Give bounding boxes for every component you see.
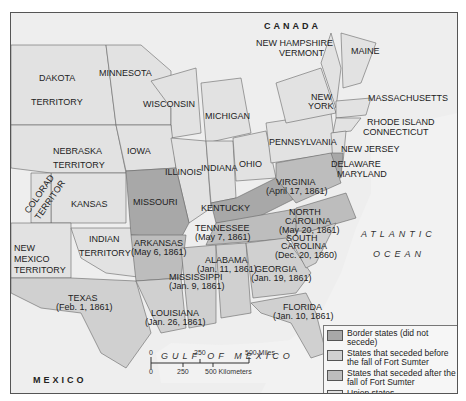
label-connecticut: CONNECTICUT	[363, 127, 429, 137]
label-louisiana-date: (Jan. 26, 1861)	[145, 317, 206, 327]
scale-miles-500: 500 Miles	[245, 349, 275, 356]
label-delaware: DELAWARE	[331, 159, 381, 169]
water-label-ocean: OCEAN	[373, 249, 425, 259]
legend-swatch-border	[327, 330, 343, 341]
label-mississippi-date: (Jan. 9, 1861)	[169, 281, 225, 291]
label-pennsylvania: PENNSYLVANIA	[269, 137, 337, 147]
label-georgia-date: (Jan. 19, 1861)	[251, 273, 312, 283]
legend-label-union: Union states	[347, 389, 394, 394]
label-wisconsin: WISCONSIN	[143, 99, 195, 109]
country-label-mexico: MEXICO	[33, 375, 87, 385]
dakota-territory	[11, 45, 116, 125]
massachusetts	[336, 98, 371, 118]
label-dakota-territory: TERRITORY	[31, 97, 83, 107]
legend-label-seceded-after: States that seceded after the fall of Fo…	[347, 369, 457, 387]
label-new-mexico-1: NEW	[14, 243, 35, 253]
legend-item-seceded-after: States that seceded after the fall of Fo…	[327, 369, 457, 387]
label-iowa: IOWA	[127, 146, 151, 156]
label-kansas: KANSAS	[71, 199, 108, 209]
label-rhode-island: RHODE ISLAND	[367, 117, 435, 127]
label-new-mexico-3: TERRITORY	[14, 265, 66, 275]
scale-km-0: 0	[149, 368, 153, 375]
label-vermont: VERMONT	[279, 48, 324, 58]
water-label-atlantic: ATLANTIC	[361, 229, 436, 239]
label-nebraska-territory: TERRITORY	[53, 160, 105, 170]
label-indiana: INDIANA	[201, 163, 238, 173]
scale-km-250: 250	[177, 368, 189, 375]
label-missouri: MISSOURI	[133, 197, 178, 207]
label-south-carolina-3: (Dec. 20, 1860)	[275, 250, 337, 260]
scale-km-500: 500 Kilometers	[205, 368, 252, 375]
legend-swatch-seceded-before	[327, 350, 343, 361]
label-minnesota: MINNESOTA	[99, 68, 152, 78]
label-new-jersey: NEW JERSEY	[341, 144, 400, 154]
label-dakota: DAKOTA	[39, 73, 75, 83]
label-florida-date: (Jan. 10, 1861)	[273, 311, 334, 321]
label-maine: MAINE	[351, 46, 380, 56]
legend-label-seceded-before: States that seceded before the fall of F…	[347, 349, 457, 367]
legend-item-union: Union states	[327, 389, 457, 394]
label-michigan: MICHIGAN	[205, 111, 250, 121]
legend-item-border: Border states (did not secede)	[327, 329, 457, 347]
scale-bar: 0 250 500 Miles 0 250 500 Kilometers	[147, 351, 277, 381]
label-ohio: OHIO	[239, 159, 262, 169]
label-kentucky: KENTUCKY	[201, 203, 250, 213]
label-illinois: ILLINOIS	[165, 167, 202, 177]
label-maryland: MARYLAND	[337, 169, 387, 179]
legend-item-seceded-before: States that seceded before the fall of F…	[327, 349, 457, 367]
scale-miles-250: 250	[194, 349, 206, 356]
legend-swatch-union	[327, 390, 343, 394]
map-frame: CANADA MEXICO ATLANTIC OCEAN GULF OF MEX…	[10, 12, 458, 394]
label-new-mexico-2: MEXICO	[14, 254, 50, 264]
label-new-york-2: YORK	[308, 101, 334, 111]
label-massachusetts: MASSACHUSETTS	[368, 93, 448, 103]
label-arkansas-date: (May 6, 1861)	[131, 247, 187, 257]
label-tennessee-date: (May 7, 1861)	[195, 232, 251, 242]
country-label-canada: CANADA	[264, 21, 321, 31]
label-virginia-date: (April 17, 1861)	[266, 186, 328, 196]
map-legend: Border states (did not secede) States th…	[323, 325, 458, 394]
label-texas-date: (Feb. 1, 1861)	[56, 302, 113, 312]
label-indian: INDIAN	[89, 234, 120, 244]
label-nebraska: NEBRASKA	[53, 146, 102, 156]
legend-swatch-seceded-after	[327, 370, 343, 381]
scale-miles-0: 0	[149, 349, 153, 356]
label-new-hampshire: NEW HAMPSHIRE	[256, 38, 333, 48]
legend-label-border: Border states (did not secede)	[347, 329, 457, 347]
label-indian-territory: TERRITORY	[79, 248, 131, 258]
